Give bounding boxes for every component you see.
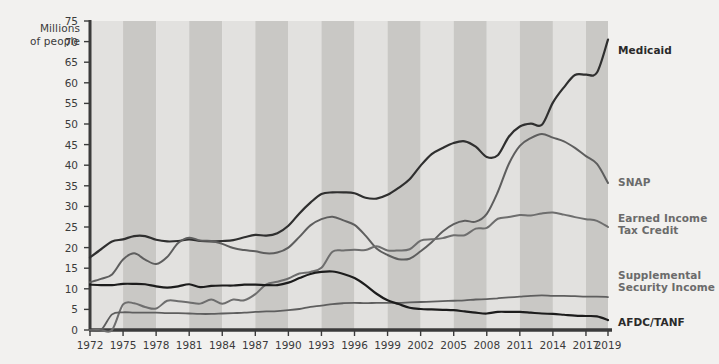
year-band [156, 21, 189, 330]
y-tick-label: 40 [56, 159, 78, 171]
year-band [288, 21, 321, 330]
y-tick-label: 35 [56, 180, 78, 192]
x-tick-label: 2014 [536, 339, 570, 351]
y-tick-label: 55 [56, 97, 78, 109]
legend-label-medicaid: Medicaid [618, 44, 672, 56]
year-band [520, 21, 553, 330]
year-band [553, 21, 586, 330]
x-tick-label: 1996 [338, 339, 372, 351]
y-tick-label: 70 [56, 36, 78, 48]
x-tick-label: 1972 [73, 339, 107, 351]
y-tick-label: 50 [56, 118, 78, 130]
year-band [388, 21, 421, 330]
x-tick-label: 1987 [238, 339, 272, 351]
y-tick-label: 0 [56, 324, 78, 336]
x-tick-label: 1990 [271, 339, 305, 351]
x-tick-label: 1981 [172, 339, 206, 351]
y-tick-label: 30 [56, 200, 78, 212]
year-band [189, 21, 222, 330]
chart-canvas: Millions of people 051015202530354045505… [0, 0, 719, 364]
x-tick-label: 1993 [304, 339, 338, 351]
year-band [355, 21, 388, 330]
x-tick-label: 1984 [205, 339, 239, 351]
line-chart-plot [0, 0, 719, 364]
y-tick-label: 10 [56, 283, 78, 295]
year-band [421, 21, 454, 330]
y-tick-label: 5 [56, 303, 78, 315]
year-bands [90, 21, 608, 330]
x-tick-label: 2011 [503, 339, 537, 351]
x-tick-label: 1978 [139, 339, 173, 351]
y-tick-label: 25 [56, 221, 78, 233]
x-tick-label: 1975 [106, 339, 140, 351]
y-tick-label: 45 [56, 139, 78, 151]
x-tick-label: 2002 [404, 339, 438, 351]
y-tick-label: 65 [56, 56, 78, 68]
legend-label-snap: SNAP [618, 176, 651, 188]
year-band [454, 21, 487, 330]
legend-label-ssi: Supplemental Security Income [618, 269, 715, 293]
legend-label-afdc: AFDC/TANF [618, 316, 685, 328]
x-tick-label: 2019 [591, 339, 625, 351]
x-tick-label: 2008 [470, 339, 504, 351]
y-tick-label: 20 [56, 242, 78, 254]
y-tick-label: 60 [56, 77, 78, 89]
y-tick-label: 75 [56, 15, 78, 27]
legend-label-eitc: Earned Income Tax Credit [618, 212, 707, 236]
y-tick-label: 15 [56, 262, 78, 274]
year-band [321, 21, 354, 330]
x-tick-label: 2005 [437, 339, 471, 351]
x-tick-label: 1999 [371, 339, 405, 351]
